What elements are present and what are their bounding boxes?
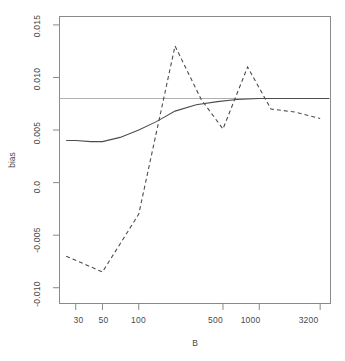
x-tick-label-1: 50 [88, 315, 119, 325]
x-axis-ticks [76, 304, 320, 311]
x-axis-title: B [178, 338, 212, 348]
series-dashed-curve [66, 46, 320, 272]
x-tick-label-3: 500 [200, 315, 231, 325]
x-tick-label-5: 3200 [293, 315, 324, 325]
y-tick-label-4: -0.005 [32, 225, 42, 255]
y-axis-ticks [53, 25, 60, 288]
series-solid-curve [66, 99, 329, 142]
y-tick-label-3: 0.0 [32, 172, 42, 202]
x-tick-label-4: 1000 [235, 315, 266, 325]
plot-area [0, 0, 345, 361]
y-tick-label-2: 0.005 [32, 118, 42, 148]
x-tick-label-2: 100 [123, 315, 154, 325]
y-tick-label-5: -0.010 [32, 279, 42, 309]
chart-canvas: 0.015 0.010 0.005 0.0 -0.005 -0.010 30 5… [0, 0, 345, 361]
plot-frame [60, 17, 331, 304]
y-tick-label-1: 0.010 [32, 64, 42, 94]
y-tick-label-0: 0.015 [32, 11, 42, 41]
y-axis-title: bias [7, 140, 17, 180]
